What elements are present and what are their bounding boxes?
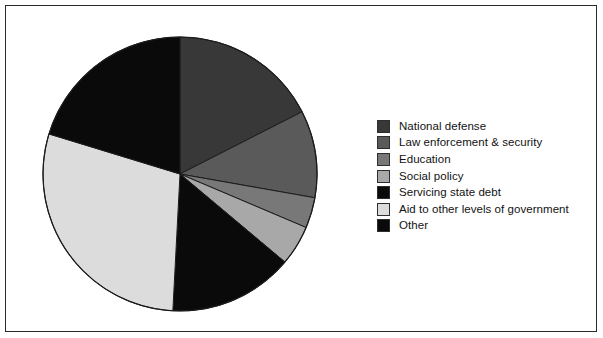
screenshot-root: National defenseLaw enforcement & securi… <box>0 0 603 338</box>
pie-chart-svg <box>6 6 346 332</box>
legend-item-label: Law enforcement & security <box>399 136 542 149</box>
legend-item[interactable]: National defense <box>377 118 592 135</box>
legend-color-swatch <box>377 203 390 216</box>
legend-color-swatch <box>377 120 390 133</box>
legend-item[interactable]: Education <box>377 151 592 168</box>
chart-legend: National defenseLaw enforcement & securi… <box>377 118 592 234</box>
legend-item-label: Other <box>399 219 428 232</box>
legend-item[interactable]: Law enforcement & security <box>377 135 592 152</box>
legend-color-swatch <box>377 153 390 166</box>
legend-item[interactable]: Social policy <box>377 168 592 185</box>
pie-chart-area <box>6 6 346 332</box>
legend-item-label: Aid to other levels of government <box>399 203 569 216</box>
legend-color-swatch <box>377 136 390 149</box>
legend-item-label: National defense <box>399 120 486 133</box>
legend-color-swatch <box>377 219 390 232</box>
legend-color-swatch <box>377 186 390 199</box>
legend-item-label: Servicing state debt <box>399 186 501 199</box>
legend-item[interactable]: Servicing state debt <box>377 184 592 201</box>
legend-item-label: Education <box>399 153 451 166</box>
legend-color-swatch <box>377 170 390 183</box>
legend-item-label: Social policy <box>399 170 464 183</box>
legend-item[interactable]: Other <box>377 218 592 235</box>
legend-item[interactable]: Aid to other levels of government <box>377 201 592 218</box>
figure-frame: National defenseLaw enforcement & securi… <box>5 5 597 332</box>
